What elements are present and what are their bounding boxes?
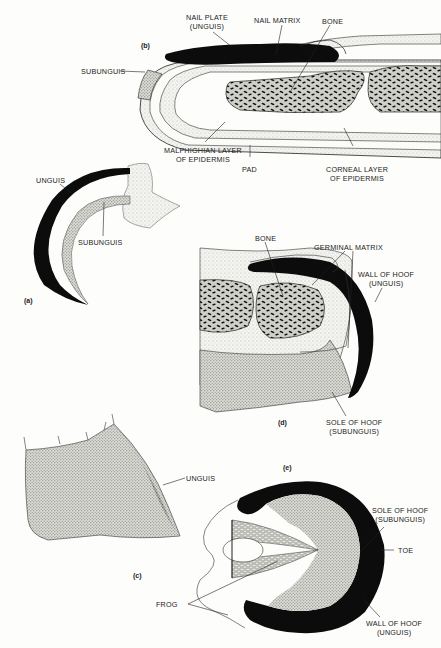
label-wall-e-line1: WALL OF HOOF bbox=[366, 619, 422, 628]
label-sole-of-hoof-e: SOLE OF HOOF (SUBUNGUIS) bbox=[372, 506, 428, 524]
panel-d-tag: (d) bbox=[278, 419, 287, 426]
label-nail-plate: NAIL PLATE (UNGUIS) bbox=[186, 13, 228, 31]
diagram-artwork bbox=[0, 0, 441, 648]
panel-a-tag: (a) bbox=[24, 297, 33, 304]
label-wall-of-hoof-e: WALL OF HOOF (UNGUIS) bbox=[366, 619, 422, 637]
label-sole-e-line2: (SUBUNGUIS) bbox=[372, 515, 428, 524]
label-wall-of-hoof-d: WALL OF HOOF (UNGUIS) bbox=[358, 270, 414, 288]
label-sole-of-hoof-d: SOLE OF HOOF (SUBUNGUIS) bbox=[326, 418, 382, 436]
label-subunguis-b: SUBUNGUIS bbox=[81, 67, 126, 76]
panel-e-tag: (e) bbox=[283, 464, 292, 471]
label-germinal-matrix: GERMINAL MATRIX bbox=[314, 243, 383, 252]
label-wall-d-line1: WALL OF HOOF bbox=[358, 270, 414, 279]
label-corneal-layer: CORNEAL LAYER OF EPIDERMIS bbox=[326, 165, 388, 183]
label-wall-e-line2: (UNGUIS) bbox=[366, 628, 422, 637]
label-corneal-line1: CORNEAL LAYER bbox=[326, 165, 388, 174]
panel-c-nail-exterior bbox=[24, 414, 185, 540]
label-pad: PAD bbox=[242, 165, 257, 174]
label-wall-d-line2: (UNGUIS) bbox=[358, 279, 414, 288]
label-frog: FROG bbox=[156, 600, 178, 609]
label-corneal-line2: OF EPIDERMIS bbox=[326, 174, 388, 183]
label-toe: TOE bbox=[398, 546, 413, 555]
panel-c-tag: (c) bbox=[133, 572, 142, 579]
label-malphighian-line2: OF EPIDERMIS bbox=[164, 155, 242, 164]
label-nail-matrix: NAIL MATRIX bbox=[254, 16, 301, 25]
panel-b-nail-section bbox=[120, 25, 441, 158]
label-sole-e-line1: SOLE OF HOOF bbox=[372, 506, 428, 515]
panel-b-tag: (b) bbox=[141, 42, 150, 49]
label-malphighian-line1: MALPHIGHIAN LAYER bbox=[164, 146, 242, 155]
label-nail-plate-line2: (UNGUIS) bbox=[186, 22, 228, 31]
label-unguis-a: UNGUIS bbox=[36, 176, 65, 185]
label-bone-b: BONE bbox=[322, 17, 343, 26]
label-nail-plate-line1: NAIL PLATE bbox=[186, 13, 228, 22]
label-bone-d: BONE bbox=[255, 234, 276, 243]
label-unguis-c: UNGUIS bbox=[186, 474, 215, 483]
panel-d-hoof-section bbox=[200, 242, 382, 416]
label-sole-d-line1: SOLE OF HOOF bbox=[326, 418, 382, 427]
panel-e-hoof-underside bbox=[188, 481, 394, 633]
label-sole-d-line2: (SUBUNGUIS) bbox=[326, 427, 382, 436]
label-malphighian-layer: MALPHIGHIAN LAYER OF EPIDERMIS bbox=[164, 146, 242, 164]
label-subunguis-a: SUBUNGUIS bbox=[78, 238, 123, 247]
